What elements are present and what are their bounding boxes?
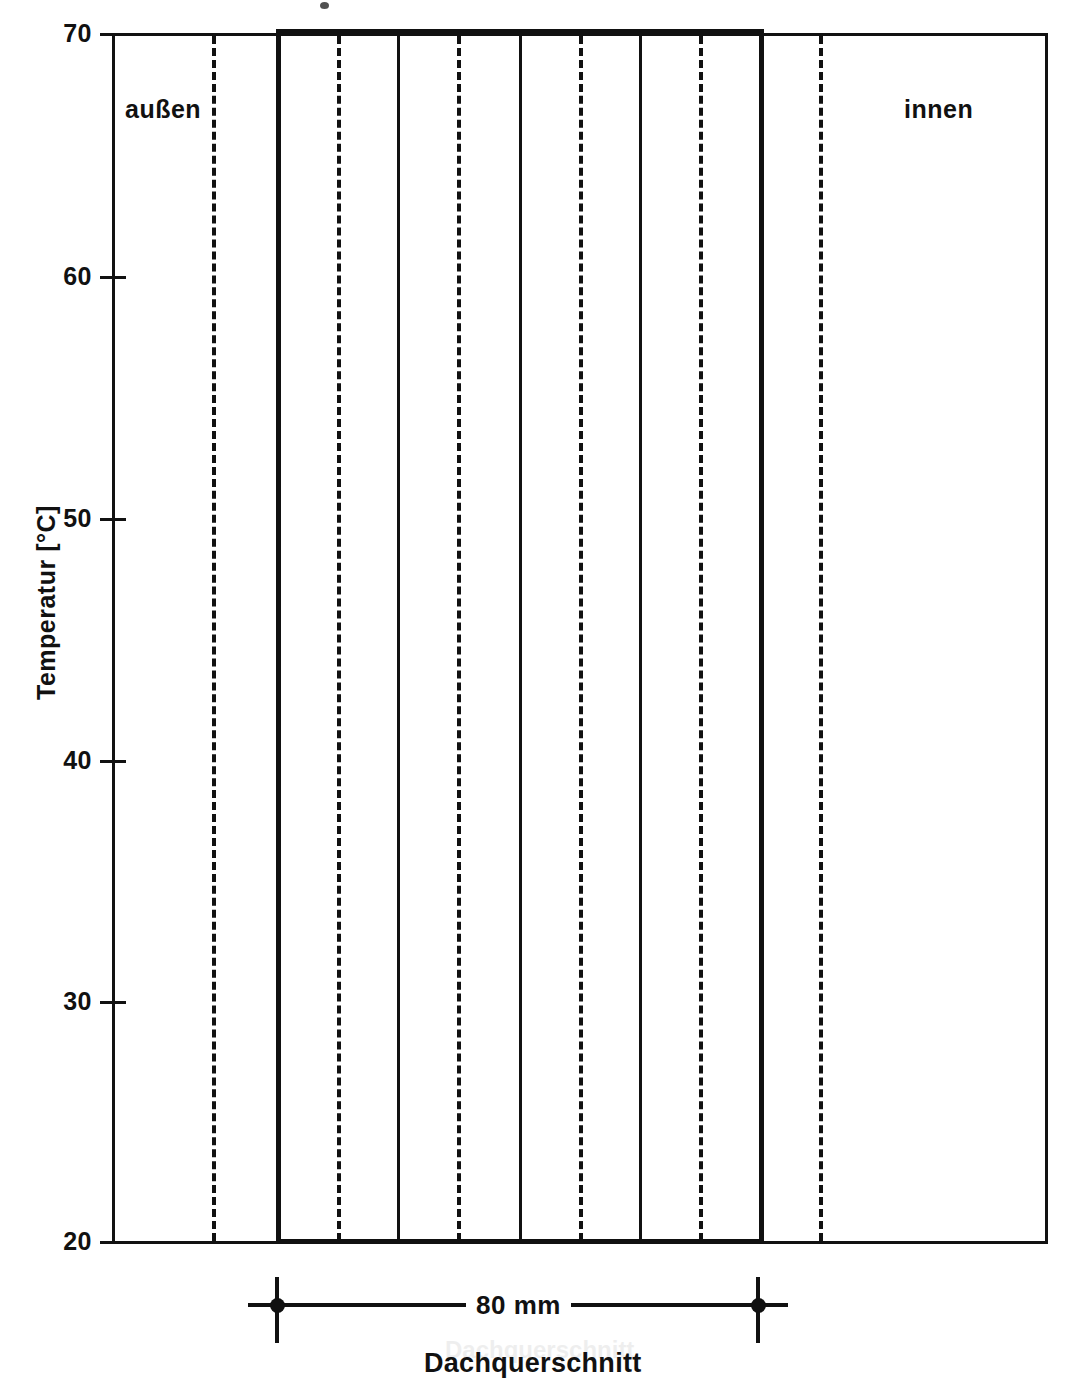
section-layer-divider-1 bbox=[397, 33, 400, 1242]
outside-region-label: außen bbox=[125, 95, 201, 124]
section-layer-divider-2 bbox=[519, 33, 522, 1242]
inside-region-label: innen bbox=[904, 95, 973, 124]
y-tick-label-20: 20 bbox=[20, 1227, 92, 1256]
y-tick-60 bbox=[100, 276, 126, 279]
y-tick-30 bbox=[100, 1001, 126, 1004]
y-axis-title: Temperatur [°C] bbox=[32, 505, 61, 700]
dimension-endpoint-right bbox=[751, 1298, 766, 1313]
y-tick-label-70: 70 bbox=[20, 19, 92, 48]
y-tick-40 bbox=[100, 760, 126, 763]
y-tick-label-40: 40 bbox=[20, 746, 92, 775]
measurement-line-4 bbox=[579, 36, 583, 1241]
section-right-wall bbox=[759, 29, 764, 1244]
y-tick-70 bbox=[100, 33, 126, 36]
measurement-line-1 bbox=[212, 36, 216, 1241]
figure-canvas: 70 60 50 40 30 20 Temperatur [°C] außen … bbox=[0, 0, 1066, 1383]
y-tick-20 bbox=[100, 1241, 126, 1244]
figure-caption: Dachquerschnitt bbox=[424, 1348, 642, 1379]
measurement-line-6 bbox=[819, 36, 823, 1241]
dimension-value-label: 80 mm bbox=[466, 1290, 571, 1321]
y-tick-label-30: 30 bbox=[20, 987, 92, 1016]
dimension-endpoint-left bbox=[270, 1298, 285, 1313]
plot-frame-right bbox=[1045, 33, 1048, 1244]
y-tick-50 bbox=[100, 518, 126, 521]
scan-artifact-speck bbox=[320, 2, 329, 9]
measurement-line-2 bbox=[337, 36, 341, 1241]
measurement-line-5 bbox=[699, 36, 703, 1241]
y-tick-label-60: 60 bbox=[20, 262, 92, 291]
section-left-wall bbox=[276, 29, 281, 1244]
plot-frame-left-axis bbox=[112, 33, 115, 1244]
measurement-line-3 bbox=[457, 36, 461, 1241]
section-layer-divider-3 bbox=[639, 33, 642, 1242]
